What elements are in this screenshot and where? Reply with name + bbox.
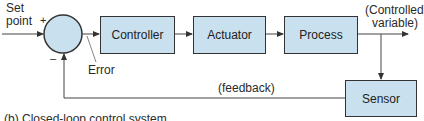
error-label: Error (88, 64, 115, 77)
controller-block: Controller (100, 16, 175, 54)
figure-caption: (b) Closed-loop control system (4, 113, 167, 121)
plus-sign: + (40, 14, 46, 27)
sensor-block: Sensor (345, 80, 417, 117)
setpoint-label-line2: point (6, 15, 32, 28)
minus-sign: – (50, 52, 56, 65)
feedback-label: (feedback) (218, 82, 275, 95)
output-label-line2: variable) (372, 17, 418, 30)
summing-junction (44, 15, 82, 53)
actuator-block: Actuator (193, 16, 266, 54)
process-block: Process (284, 16, 358, 54)
